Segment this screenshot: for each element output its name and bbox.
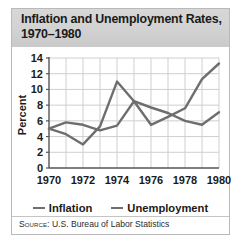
source-note: Source: U.S. Bureau of Labor Statistics xyxy=(19,219,169,229)
y-tick-labels: 02468101214 xyxy=(31,52,44,174)
x-tick-label: 1980 xyxy=(207,174,231,186)
y-tick-label: 0 xyxy=(37,162,43,174)
x-tick-label: 1974 xyxy=(105,174,130,186)
y-tick-label: 8 xyxy=(37,99,43,111)
x-tick-label: 1972 xyxy=(71,174,95,186)
line-chart-svg: 02468101214 197019721974197619781980 Per… xyxy=(12,47,231,197)
plot-area: 02468101214 197019721974197619781980 Per… xyxy=(12,47,231,197)
y-axis-title: Percent xyxy=(16,94,28,135)
source-keyword: Source: xyxy=(19,219,50,229)
legend-swatch-unemployment xyxy=(111,207,123,210)
legend-item-inflation: Inflation xyxy=(33,202,93,214)
legend-label-unemployment: Unemployment xyxy=(127,202,208,214)
gridlines xyxy=(49,58,219,168)
source-divider xyxy=(12,216,229,217)
y-tick-label: 10 xyxy=(31,83,43,95)
y-tick-label: 6 xyxy=(37,115,43,127)
x-tick-label: 1970 xyxy=(37,174,61,186)
y-tick-label: 12 xyxy=(31,68,43,80)
legend-swatch-inflation xyxy=(33,207,45,210)
chart-figure: Inflation and Unemployment Rates, 1970–1… xyxy=(11,8,230,235)
y-tick-label: 2 xyxy=(37,146,43,158)
chart-legend: Inflation Unemployment xyxy=(12,199,229,217)
x-tick-labels: 197019721974197619781980 xyxy=(37,174,231,186)
chart-title-band: Inflation and Unemployment Rates, 1970–1… xyxy=(12,9,229,47)
x-tick-label: 1976 xyxy=(139,174,163,186)
y-tick-label: 4 xyxy=(37,131,44,143)
source-text: U.S. Bureau of Labor Statistics xyxy=(52,219,170,229)
y-tick-label: 14 xyxy=(31,52,44,64)
legend-label-inflation: Inflation xyxy=(49,202,93,214)
x-tick-label: 1978 xyxy=(173,174,197,186)
legend-item-unemployment: Unemployment xyxy=(111,202,208,214)
chart-title: Inflation and Unemployment Rates, 1970–1… xyxy=(21,12,225,42)
